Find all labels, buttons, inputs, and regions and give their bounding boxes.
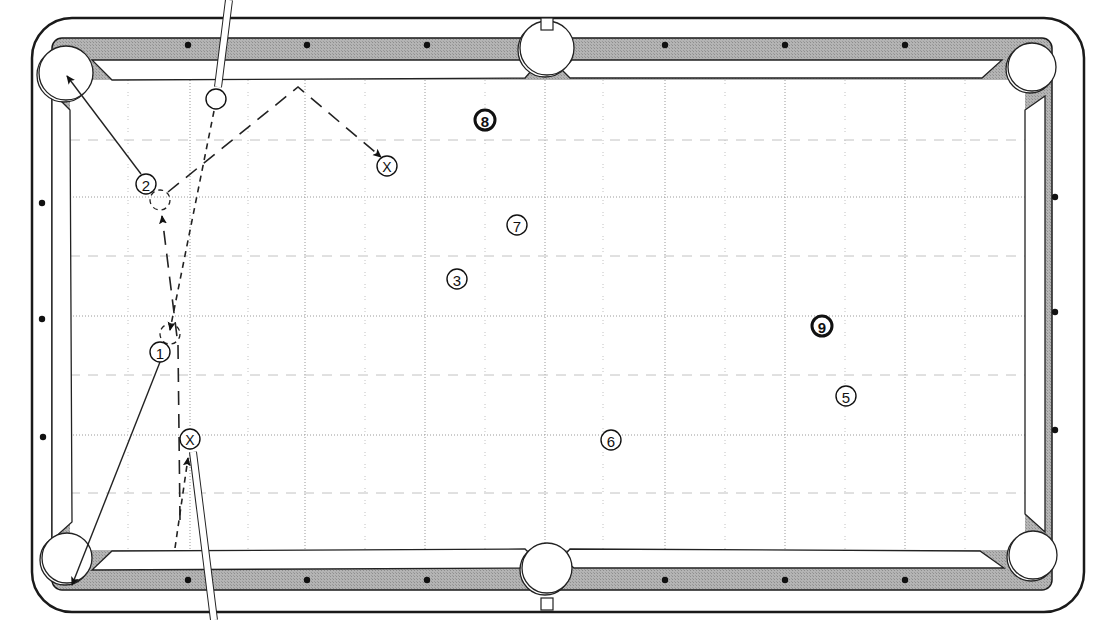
ball-7: 7 [507, 215, 527, 235]
ball-number: 7 [513, 218, 521, 235]
pool-table-diagram: 12356789XX [0, 0, 1096, 620]
ball-number: 3 [453, 272, 461, 289]
cushion-top-left [92, 60, 532, 80]
diamond-marker [662, 577, 668, 583]
ball-3: 3 [447, 269, 467, 289]
ball-9: 9 [812, 316, 832, 336]
position-x-top: X [377, 156, 397, 176]
pocket-hole [42, 533, 92, 583]
center-notch-top [541, 18, 553, 30]
diamond-marker [1052, 194, 1058, 200]
cue-start [206, 89, 226, 109]
cushion-right [1025, 96, 1045, 532]
diamond-marker [40, 434, 46, 440]
ball-1: 1 [150, 342, 170, 362]
diamond-marker [424, 577, 430, 583]
pocket-hole [1009, 531, 1057, 579]
ball-number: 5 [842, 389, 850, 406]
cushion-top-right [562, 60, 1002, 78]
diamond-marker [304, 42, 310, 48]
ball-number: 9 [818, 319, 826, 336]
diamond-marker [1052, 309, 1058, 315]
pocket-hole [1008, 43, 1056, 91]
diamond-marker [662, 42, 668, 48]
ball-number: 6 [607, 433, 615, 450]
cushion-bottom-right [562, 549, 1004, 568]
ball-5: 5 [836, 386, 856, 406]
pocket-hole [522, 543, 572, 593]
diamond-marker [39, 200, 45, 206]
position-x-label: X [185, 432, 195, 448]
ball-6: 6 [601, 430, 621, 450]
ball-ring [206, 89, 226, 109]
cushion-left [52, 92, 72, 540]
center-notch-bottom [541, 598, 553, 610]
diamond-marker [185, 577, 191, 583]
ball-number: 8 [481, 113, 489, 130]
diamond-marker [424, 42, 430, 48]
diamond-marker [1052, 427, 1058, 433]
ball-8: 8 [475, 110, 495, 130]
diamond-marker [185, 42, 191, 48]
diamond-marker [902, 42, 908, 48]
cushion-bottom-left [92, 549, 532, 570]
diamond-marker [39, 316, 45, 322]
ball-number: 1 [156, 345, 164, 362]
ball-2: 2 [136, 174, 156, 194]
ball-number: 2 [142, 177, 150, 194]
diamond-marker [304, 577, 310, 583]
diamond-marker [782, 42, 788, 48]
position-x-bottom: X [180, 429, 200, 449]
pocket-hole [39, 46, 93, 100]
cloth [70, 80, 1025, 550]
diamond-marker [902, 577, 908, 583]
position-x-label: X [382, 159, 392, 175]
diamond-marker [782, 577, 788, 583]
